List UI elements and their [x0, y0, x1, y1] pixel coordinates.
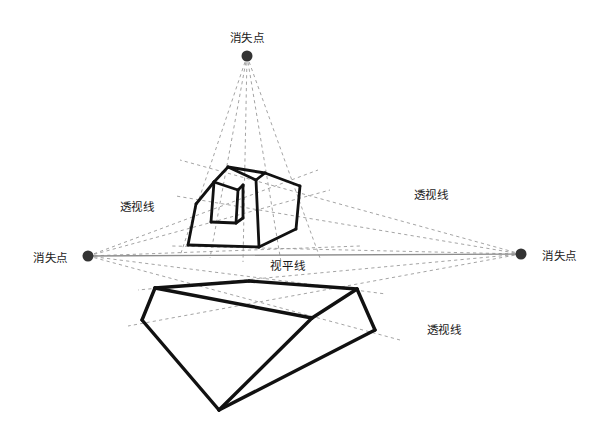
lower-cube-edge — [142, 288, 155, 320]
guide-line-top-vp — [247, 56, 281, 262]
guides-from-top-vanishing-point — [180, 56, 320, 262]
upper-cube-edge — [265, 173, 300, 186]
vanishing-point-dot-left — [83, 251, 94, 262]
lower-cube-edge — [312, 289, 357, 318]
perspective-diagram: 消失点 消失点 消失点 视平线 透视线 透视线 透视线 — [0, 0, 604, 442]
lower-cube — [142, 281, 375, 410]
upper-cube-edge — [214, 167, 228, 182]
lower-cube-edge — [357, 289, 375, 330]
upper-cube-edge — [188, 245, 259, 247]
guide-line-top-vp — [243, 56, 247, 262]
label-vanishing-point-top: 消失点 — [230, 31, 265, 44]
label-vanishing-point-right: 消失点 — [542, 249, 577, 262]
lower-cube-edge — [219, 318, 312, 410]
upper-cube — [188, 167, 300, 247]
vanishing-point-dot-right — [516, 249, 527, 260]
label-horizon-line: 视平线 — [270, 259, 307, 272]
guide-line-top-vp — [210, 56, 247, 258]
horizon-line — [88, 254, 521, 256]
upper-cube-edge — [259, 229, 296, 247]
vanishing-point-dot-top — [242, 51, 253, 62]
guide-line-right-vp — [180, 160, 521, 254]
lower-cube-edge — [155, 288, 312, 318]
lower-cube-edge — [219, 330, 375, 410]
label-vanishing-point-left: 消失点 — [33, 251, 68, 264]
vanishing-point-dots — [83, 51, 527, 262]
guide-line-top-vp — [180, 56, 247, 256]
upper-cube-edge — [256, 173, 265, 180]
lower-cube-edge — [249, 281, 357, 289]
guide-line-right-vp — [128, 254, 521, 326]
label-perspective-line-left: 透视线 — [120, 200, 155, 213]
lower-cube-edge — [142, 320, 219, 410]
label-perspective-line-lower-right: 透视线 — [427, 323, 462, 336]
upper-cube-edge — [236, 190, 238, 223]
perspective-canvas: 消失点 消失点 消失点 视平线 透视线 透视线 透视线 — [0, 0, 604, 442]
upper-cube-edge — [256, 180, 259, 247]
upper-cube-edge — [211, 182, 214, 222]
label-perspective-line-right: 透视线 — [414, 188, 449, 201]
guide-line-left-vp — [88, 170, 318, 256]
upper-cube-edge — [188, 204, 196, 245]
upper-cube-edge — [214, 182, 238, 190]
guide-line-left-vp — [88, 256, 400, 340]
upper-cube-edge — [211, 222, 236, 223]
guides-from-right-vanishing-point — [128, 160, 521, 326]
